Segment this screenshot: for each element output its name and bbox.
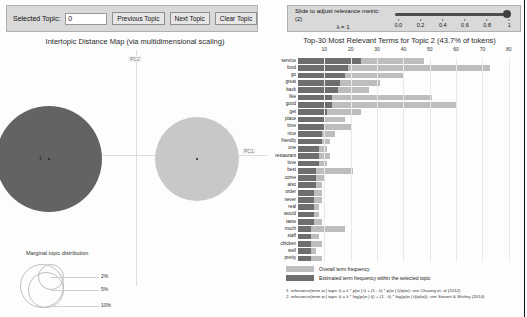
- barchart-row[interactable]: good: [272, 102, 524, 108]
- term-label[interactable]: pretty: [272, 255, 296, 260]
- barchart-row[interactable]: one: [272, 146, 524, 152]
- bar-topic-frequency: [298, 234, 311, 240]
- lambda-slider-track[interactable]: [395, 13, 506, 16]
- barchart-row[interactable]: restaurant: [272, 153, 524, 159]
- intertopic-map-title: Intertopic Distance Map (via multidimens…: [0, 37, 270, 46]
- legend-swatch: [286, 266, 314, 272]
- term-label[interactable]: like: [272, 94, 296, 99]
- x-tick-20: 20: [348, 46, 354, 52]
- barchart-row[interactable]: taste: [272, 219, 524, 225]
- bar-topic-frequency: [298, 109, 327, 115]
- term-label[interactable]: service: [272, 58, 296, 63]
- gridline-50: [430, 58, 431, 262]
- bar-topic-frequency: [298, 102, 332, 108]
- barchart-row[interactable]: get: [272, 109, 524, 115]
- relevance-slider-panel: Slide to adjust relevance metric:(2) λ =…: [287, 5, 521, 32]
- barchart-row[interactable]: best: [272, 168, 524, 174]
- term-label[interactable]: good: [272, 101, 296, 106]
- clear-topic-button[interactable]: Clear Topic: [215, 12, 257, 25]
- barchart-row[interactable]: time: [272, 124, 524, 130]
- barchart-plot-area: servicefoodgogreatbacklikegoodgetplaceti…: [272, 58, 524, 263]
- marginal-topic-distribution-legend: Marginal topic distribution 2% 5% 10%: [14, 250, 139, 310]
- x-tick-70: 70: [480, 46, 486, 52]
- lambda-slider-handle[interactable]: [503, 10, 511, 18]
- bar-topic-frequency: [298, 117, 324, 123]
- term-label[interactable]: would: [272, 211, 296, 216]
- lambda-slider[interactable]: 0.00.20.40.60.81: [391, 8, 513, 30]
- term-label[interactable]: restaurant: [272, 153, 296, 158]
- barchart-row[interactable]: well: [272, 248, 524, 254]
- barchart-row[interactable]: come: [272, 175, 524, 181]
- barchart-row[interactable]: back: [272, 87, 524, 93]
- term-label[interactable]: order: [272, 189, 296, 194]
- bar-topic-frequency: [298, 153, 319, 159]
- term-label[interactable]: back: [272, 87, 296, 92]
- barchart-row[interactable]: order: [272, 190, 524, 196]
- lambda-tick-0.8: 0.8: [483, 19, 491, 28]
- x-tick-50: 50: [427, 46, 433, 52]
- barchart-row[interactable]: staff: [272, 234, 524, 240]
- barchart-row[interactable]: service: [272, 58, 524, 64]
- term-label[interactable]: chicken: [272, 241, 296, 246]
- barchart-row[interactable]: nice: [272, 131, 524, 137]
- barchart-row[interactable]: great: [272, 80, 524, 86]
- term-label[interactable]: best: [272, 167, 296, 172]
- term-label[interactable]: come: [272, 175, 296, 180]
- term-label[interactable]: love: [272, 160, 296, 165]
- bar-topic-frequency: [298, 197, 314, 203]
- marginal-topic-distribution-title: Marginal topic distribution: [26, 250, 88, 256]
- x-tick-80: 80: [506, 46, 512, 52]
- footnote-2: 2. relevance(term w | topic t) = λ * log…: [286, 294, 524, 300]
- barchart-row[interactable]: like: [272, 95, 524, 101]
- term-label[interactable]: food: [272, 65, 296, 70]
- barchart-row[interactable]: pretty: [272, 256, 524, 262]
- term-label[interactable]: time: [272, 123, 296, 128]
- lambda-tick-1: 1: [508, 19, 511, 28]
- term-label[interactable]: place: [272, 116, 296, 121]
- bar-topic-frequency: [298, 65, 348, 71]
- barchart-row[interactable]: real: [272, 204, 524, 210]
- selected-topic-label: Selected Topic:: [13, 15, 60, 22]
- topic-controls-panel: Selected Topic: Previous Topic Next Topi…: [6, 5, 258, 32]
- term-label[interactable]: real: [272, 204, 296, 209]
- term-label[interactable]: also: [272, 182, 296, 187]
- bar-topic-frequency: [298, 87, 338, 93]
- term-label[interactable]: much: [272, 226, 296, 231]
- previous-topic-button[interactable]: Previous Topic: [112, 12, 164, 25]
- marginal-leader-2pct: [51, 277, 99, 278]
- term-label[interactable]: friendly: [272, 138, 296, 143]
- bar-topic-frequency: [298, 95, 332, 101]
- lambda-tick-0.4: 0.4: [439, 19, 447, 28]
- marginal-label-10pct: 10%: [101, 302, 111, 308]
- bar-topic-frequency: [298, 248, 311, 254]
- topic-circle-1[interactable]: [0, 106, 102, 212]
- barchart-row[interactable]: place: [272, 117, 524, 123]
- barchart-row[interactable]: friendly: [272, 139, 524, 145]
- term-label[interactable]: taste: [272, 219, 296, 224]
- term-label[interactable]: get: [272, 109, 296, 114]
- barchart-row[interactable]: also: [272, 182, 524, 188]
- term-label[interactable]: great: [272, 79, 296, 84]
- bar-topic-frequency: [298, 168, 316, 174]
- legend-label: Estimated term frequency within the sele…: [319, 275, 430, 281]
- term-label[interactable]: well: [272, 248, 296, 253]
- barchart-row[interactable]: would: [272, 212, 524, 218]
- selected-topic-input[interactable]: [65, 13, 107, 25]
- bar-topic-frequency: [298, 146, 319, 152]
- term-label[interactable]: one: [272, 145, 296, 150]
- next-topic-button[interactable]: Next Topic: [170, 12, 210, 25]
- barchart-row[interactable]: love: [272, 161, 524, 167]
- term-label[interactable]: staff: [272, 233, 296, 238]
- term-label[interactable]: never: [272, 197, 296, 202]
- barchart-row[interactable]: never: [272, 197, 524, 203]
- gridline-20: [351, 58, 352, 262]
- barchart-row[interactable]: much: [272, 226, 524, 232]
- term-label[interactable]: go: [272, 72, 296, 77]
- barchart-row[interactable]: chicken: [272, 241, 524, 247]
- marginal-leader-10pct: [51, 306, 99, 307]
- topic-center-1: [48, 158, 50, 160]
- term-label[interactable]: nice: [272, 131, 296, 136]
- barchart-row[interactable]: go: [272, 73, 524, 79]
- gridline-40: [403, 58, 404, 262]
- barchart-row[interactable]: food: [272, 65, 524, 71]
